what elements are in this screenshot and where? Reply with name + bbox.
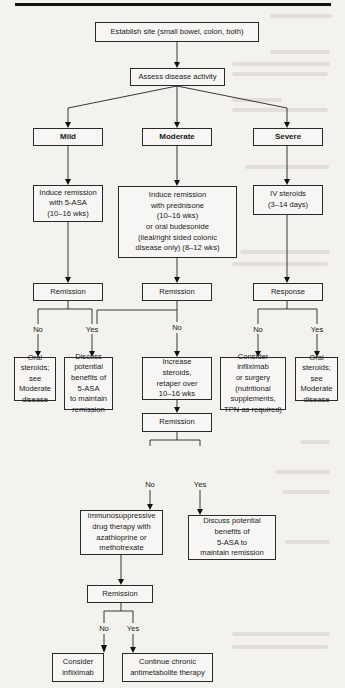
continue-antimetabolite-box: Continue chronic antimetabolite therapy <box>122 653 213 682</box>
mild-induction-box: Induce remission with 5-ASA (10–16 wks) <box>33 185 103 222</box>
second-no-label: No <box>145 480 155 489</box>
moderate-induction-box: Induce remission with prednisone (10–16 … <box>118 186 237 258</box>
severe-consider-infliximab-box: Consider infliximab or surgery (nutritio… <box>220 357 286 410</box>
mild-yes-discuss-5asa-box: Discuss potential benefits of 5-ASA to m… <box>64 357 113 410</box>
moderate-remission-box: Remission <box>142 283 212 301</box>
mild-box: Mild <box>33 128 103 146</box>
severe-response-box: Response <box>253 283 323 301</box>
second-yes-label: Yes <box>194 480 206 489</box>
mild-remission-box: Remission <box>33 283 103 301</box>
establish-site-box: Establish site (small bowel, colon, both… <box>95 22 259 42</box>
severe-yes-label: Yes <box>311 325 323 334</box>
third-no-label: No <box>99 624 109 633</box>
severe-no-label: No <box>253 325 263 334</box>
assess-activity-box: Assess disease activity <box>130 68 225 86</box>
mild-yes-label: Yes <box>86 325 98 334</box>
mild-no-oral-steroids-box: Oral steroids; see Moderate disease <box>14 357 56 401</box>
severe-yes-oral-steroids-box: Oral steroids; see Moderate disease <box>295 357 338 401</box>
discuss-5asa-maintain-box: Discuss potential benefits of 5-ASA to m… <box>188 515 276 560</box>
moderate-box: Moderate <box>142 128 212 146</box>
flowchart-connectors <box>0 0 345 688</box>
moderate-increase-steroids-box: Increase steroids, retaper over 10–16 wk… <box>142 357 212 400</box>
second-remission-box: Remission <box>142 413 212 432</box>
moderate-no-label: No <box>172 323 182 332</box>
immunosuppressive-therapy-box: Immunosuppressive drug therapy with azat… <box>80 510 163 555</box>
third-remission-box: Remission <box>87 585 153 603</box>
mild-no-label: No <box>33 325 43 334</box>
severe-box: Severe <box>253 128 323 146</box>
consider-infliximab-box: Consider infliximab <box>52 653 104 682</box>
severe-iv-steroids-box: IV steroids (3–14 days) <box>253 185 323 215</box>
third-yes-label: Yes <box>127 624 139 633</box>
